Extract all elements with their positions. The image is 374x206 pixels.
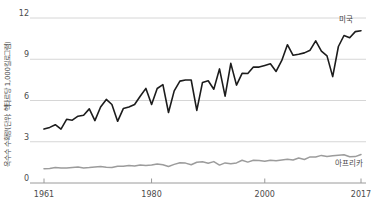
y-axis-title: 옥수수 수확량(단위: 헥타르당 1,000킬로그램)	[2, 41, 12, 166]
y-tick-label-9: 9	[24, 50, 29, 59]
plot-area: 0369121961198020002017	[0, 0, 374, 206]
series-line-usa	[44, 31, 361, 129]
y-tick-label-3: 3	[24, 133, 29, 142]
y-tick-label-0: 0	[24, 174, 29, 183]
y-tick-label-12: 12	[19, 9, 29, 18]
x-tick-label-2017: 2017	[351, 190, 371, 199]
x-tick-label-1980: 1980	[141, 190, 161, 199]
series-label-usa: 미국	[339, 13, 353, 24]
series-label-africa: 아프리카	[335, 157, 363, 168]
x-tick-label-1961: 1961	[34, 190, 54, 199]
y-tick-label-6: 6	[24, 92, 29, 101]
series-line-africa	[44, 155, 361, 169]
corn-yield-line-chart: 0369121961198020002017 옥수수 수확량(단위: 헥타르당 …	[0, 0, 374, 206]
x-tick-label-2000: 2000	[255, 190, 275, 199]
